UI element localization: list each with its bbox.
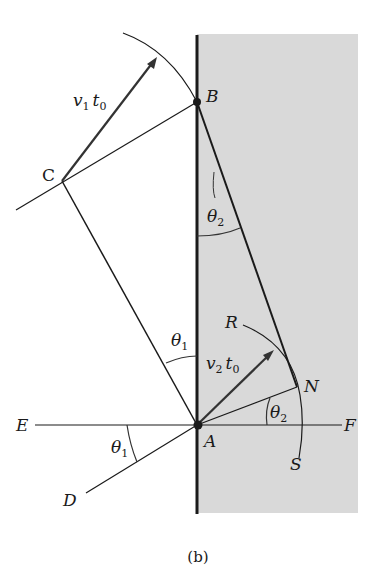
label-C: C — [42, 165, 55, 185]
label-theta1-bottom: θ1 — [111, 437, 128, 460]
point-B-dot — [193, 98, 201, 106]
point-A-dot — [194, 421, 203, 430]
angle-arc-theta1-top — [166, 356, 197, 363]
figure-caption: (b) — [187, 548, 208, 566]
label-theta1-top: θ1 — [171, 330, 188, 353]
wavelet-arc-v1t0 — [123, 33, 197, 102]
label-D: D — [62, 490, 77, 510]
line-CA — [62, 181, 197, 425]
label-F: F — [343, 415, 357, 435]
label-N: N — [303, 376, 320, 396]
incident-ray-DA — [86, 425, 197, 493]
refraction-diagram: B C A E F D N R S v1t0 v2t0 θ2 θ1 θ2 θ1 … — [0, 0, 375, 577]
angle-arc-theta1-bottom — [127, 425, 137, 462]
vector-v1t0-arrow — [62, 62, 153, 181]
second-medium-region — [197, 34, 358, 513]
label-v1t0: v1t0 — [73, 90, 106, 113]
label-R: R — [224, 312, 238, 332]
label-S: S — [290, 454, 302, 474]
wavefront-line-CB — [16, 102, 197, 210]
label-A: A — [202, 431, 216, 451]
label-E: E — [15, 415, 29, 435]
label-B: B — [205, 86, 219, 106]
